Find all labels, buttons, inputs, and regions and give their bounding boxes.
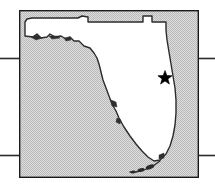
florida-locator-map-figure [0,0,215,184]
map-canvas [0,0,215,184]
